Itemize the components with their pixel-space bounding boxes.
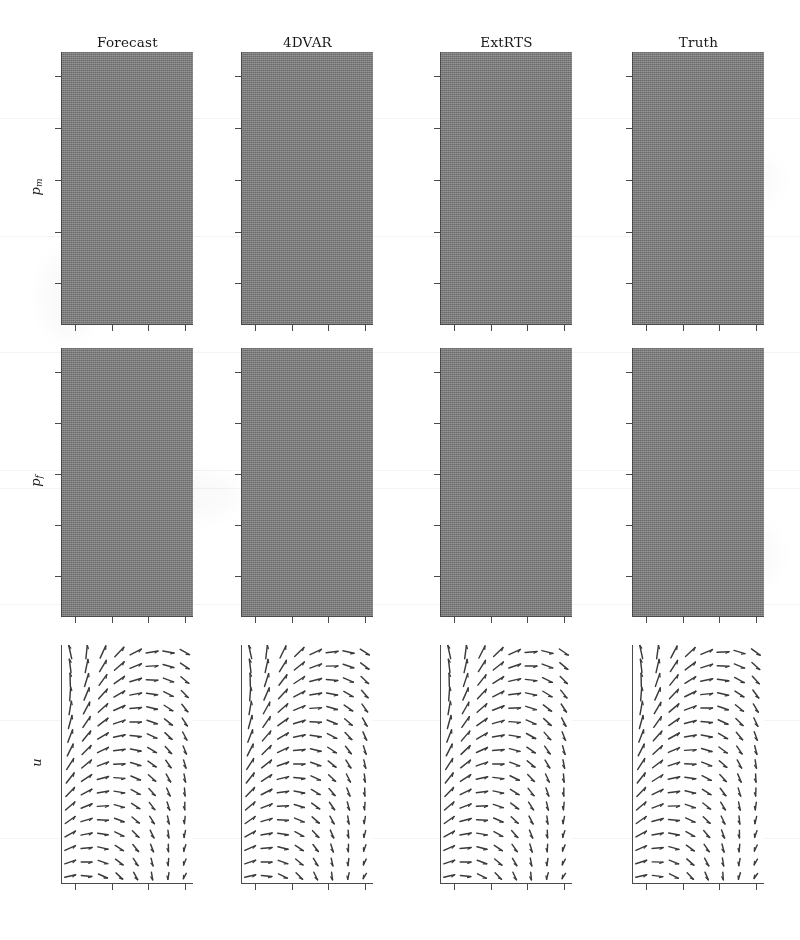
quiver-arrow (685, 777, 696, 778)
quiver-arrowhead (546, 862, 547, 865)
quiver-arrow (637, 773, 645, 783)
y-axis-tick (434, 423, 440, 424)
axis-left-spine (241, 348, 242, 616)
quiver-arrow (263, 717, 270, 728)
quiver-arrow (446, 759, 453, 770)
quiver-arrow (670, 675, 678, 685)
quiver-arrow (280, 646, 286, 658)
vector-field-quiver (62, 645, 193, 883)
quiver-arrow (653, 731, 661, 741)
quiver-arrow (100, 646, 106, 658)
quiver-arrow (446, 744, 452, 756)
quiver-arrowhead (517, 751, 520, 752)
x-axis-tick (454, 617, 455, 623)
y-axis-tick (434, 372, 440, 373)
quiver-arrowhead (351, 653, 354, 654)
quiver-arrow (249, 701, 251, 714)
quiver-arrow (130, 749, 141, 751)
quiver-arrow (477, 704, 487, 712)
quiver-arrowhead (170, 667, 173, 668)
quiver-arrow (295, 647, 304, 656)
x-axis-tick (646, 617, 647, 623)
y-axis-tick (434, 474, 440, 475)
quiver-arrow (685, 791, 695, 793)
quiver-arrowhead (253, 773, 254, 776)
column-header-4dvar: 4DVAR (242, 34, 373, 50)
quiver-arrowhead (88, 659, 89, 662)
vector-field-quiver (633, 645, 764, 883)
x-axis-tick (646, 884, 647, 890)
scalar-field-raster (62, 348, 193, 616)
y-axis-tick (434, 576, 440, 577)
quiver-arrow (114, 791, 125, 793)
axis-left-spine (632, 645, 633, 883)
quiver-arrowhead (136, 822, 139, 823)
quiver-arrowhead (546, 876, 547, 879)
quiver-arrow (86, 645, 87, 658)
column-header-forecast: Forecast (62, 34, 193, 50)
quiver-arrow (526, 706, 536, 709)
quiver-arrow (294, 662, 304, 670)
x-axis-tick (75, 325, 76, 331)
quiver-arrowhead (548, 710, 551, 711)
quiver-arrow (99, 675, 107, 686)
quiver-arrowhead (754, 807, 755, 810)
quiver-arrowhead (318, 737, 321, 738)
quiver-arrow (543, 678, 553, 683)
quiver-arrow (248, 730, 253, 742)
quiver-arrow (66, 773, 74, 783)
quiver-arrow (509, 735, 520, 737)
quiver-arrowhead (270, 731, 271, 734)
scalar-field-raster (633, 52, 764, 324)
quiver-arrow (85, 659, 88, 672)
y-axis-tick (434, 525, 440, 526)
quiver-arrow (718, 720, 728, 724)
quiver-arrowhead (467, 659, 468, 662)
y-axis-tick (626, 372, 632, 373)
axis-left-spine (61, 645, 62, 883)
quiver-arrow (163, 651, 174, 653)
quiver-arrow (462, 702, 468, 713)
quiver-arrowhead (532, 752, 535, 753)
y-axis-tick (235, 372, 241, 373)
quiver-arrow (82, 760, 92, 768)
y-axis-tick (55, 180, 61, 181)
quiver-arrow (114, 778, 125, 779)
x-axis-tick (527, 884, 528, 890)
quiver-arrow (246, 787, 255, 796)
quiver-arrow (686, 648, 696, 657)
y-axis-tick (55, 232, 61, 233)
x-axis-tick (112, 617, 113, 623)
quiver-arrowhead (268, 659, 269, 662)
quiver-arrow (266, 645, 268, 658)
quiver-arrow (360, 649, 369, 655)
panel-u-truth (633, 645, 764, 883)
quiver-arrow (463, 674, 467, 687)
quiver-arrowhead (725, 695, 728, 696)
quiver-arrow (279, 660, 286, 671)
quiver-arrowhead (153, 766, 156, 767)
x-axis-tick (75, 617, 76, 623)
quiver-arrowhead (105, 849, 108, 850)
quiver-arrow (477, 820, 488, 821)
y-axis-tick (235, 525, 241, 526)
quiver-arrowhead (754, 875, 755, 878)
axis-left-spine (241, 52, 242, 324)
quiver-arrowhead (171, 653, 174, 654)
quiver-arrowhead (708, 794, 711, 795)
x-axis-tick (292, 617, 293, 623)
x-axis-tick (527, 325, 528, 331)
vector-field-quiver (441, 645, 572, 883)
quiver-arrow (493, 662, 503, 670)
quiver-arrow (66, 787, 75, 796)
x-axis-tick (292, 325, 293, 331)
quiver-arrowhead (451, 716, 452, 719)
quiver-arrow (82, 731, 90, 741)
scalar-field-raster (62, 52, 193, 324)
x-axis-tick (719, 325, 720, 331)
quiver-arrow (447, 730, 452, 742)
x-axis-tick (75, 884, 76, 890)
quiver-arrowhead (738, 862, 739, 865)
x-axis-tick (255, 617, 256, 623)
x-axis-tick (527, 617, 528, 623)
